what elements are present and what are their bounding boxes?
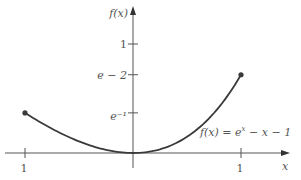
x-tick-label-neg1: 1 <box>21 162 28 175</box>
endpoint-marker-1 <box>238 72 243 77</box>
equation-annotation: f(x) = ex − x − 1 <box>199 125 291 139</box>
y-tick-label-e-minus-2: e − 2 <box>97 69 127 82</box>
chart: f(x) x 1 1 1 e − 2 e⁻¹ f(x) = ex − x − 1 <box>0 0 301 180</box>
endpoint-marker-0 <box>22 110 27 115</box>
y-axis-arrow-icon <box>130 6 136 15</box>
x-axis-arrow-icon <box>281 150 290 156</box>
axes <box>5 6 290 168</box>
y-axis-label: f(x) <box>108 7 128 20</box>
x-axis-label: x <box>282 160 289 173</box>
y-tick-label-e-inverse: e⁻¹ <box>110 110 127 123</box>
y-tick-label-1: 1 <box>120 38 127 51</box>
x-tick-label-1: 1 <box>237 162 244 175</box>
equation-part-base: f(x) = e <box>199 126 242 139</box>
equation-part-rest: − x − 1 <box>246 126 292 139</box>
